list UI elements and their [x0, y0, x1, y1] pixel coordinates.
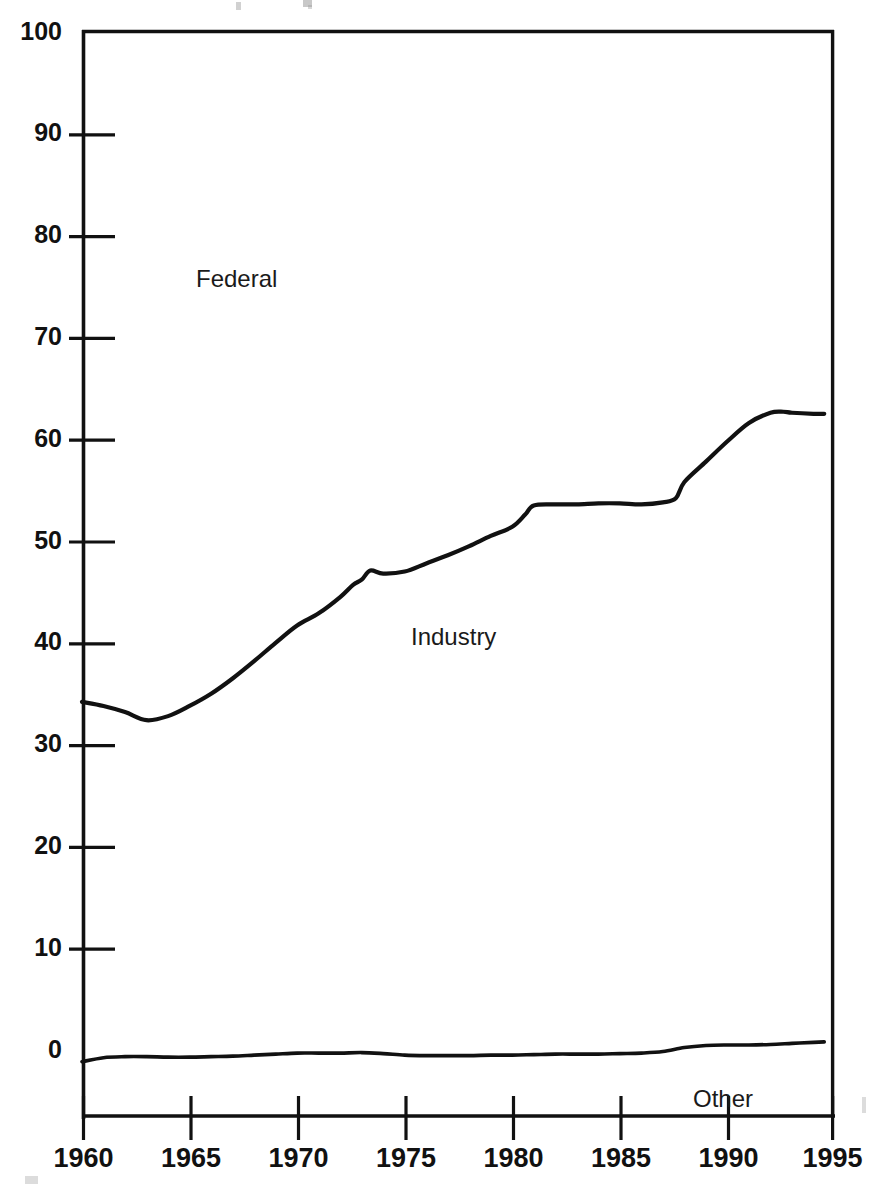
x-tick-label-1970: 1970	[268, 1143, 328, 1173]
y-tick-label-60: 60	[34, 424, 62, 452]
x-tick-labels: 1960 1965 1970 1975 1980 1985 1990 1995	[53, 1143, 862, 1173]
y-tick-label-40: 40	[34, 627, 62, 655]
x-tick-label-1995: 1995	[803, 1143, 863, 1173]
x-tick-label-1960: 1960	[53, 1143, 113, 1173]
x-tick-label-1980: 1980	[483, 1143, 543, 1173]
series-line-industry	[82, 412, 824, 721]
y-tick-label-100: 100	[20, 17, 62, 45]
annotation-other: Other	[693, 1085, 753, 1112]
annotation-federal: Federal	[196, 265, 277, 292]
y-tick-label-20: 20	[34, 831, 62, 859]
data-series-group	[82, 412, 824, 1062]
scan-artifacts	[25, 0, 866, 1184]
x-tick-label-1985: 1985	[591, 1143, 651, 1173]
x-tick-label-1965: 1965	[161, 1143, 221, 1173]
y-tick-label-0: 0	[48, 1035, 62, 1063]
y-tick-label-70: 70	[34, 322, 62, 350]
y-tick-label-90: 90	[34, 118, 62, 146]
x-tick-label-1975: 1975	[376, 1143, 436, 1173]
series-line-other	[82, 1042, 824, 1062]
y-tick-marks	[69, 135, 115, 949]
series-annotations: Federal Industry Other	[196, 265, 753, 1112]
x-tick-label-1990: 1990	[698, 1143, 758, 1173]
y-tick-label-30: 30	[34, 729, 62, 757]
y-tick-label-80: 80	[34, 220, 62, 248]
plot-frame	[82, 30, 834, 1117]
annotation-industry: Industry	[411, 623, 496, 650]
y-tick-label-50: 50	[34, 526, 62, 554]
chart-container: 100 90 80 70 60 50 40 30 20 10 0 1960 19…	[0, 0, 887, 1190]
y-tick-labels: 100 90 80 70 60 50 40 30 20 10 0	[20, 17, 62, 1063]
y-tick-label-10: 10	[34, 933, 62, 961]
line-chart: 100 90 80 70 60 50 40 30 20 10 0 1960 19…	[0, 0, 887, 1190]
